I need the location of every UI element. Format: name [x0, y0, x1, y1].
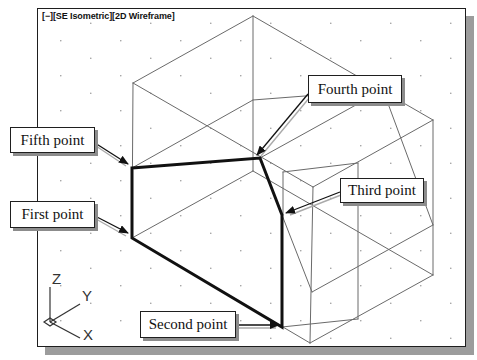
callout-fourth-point: Fourth point: [308, 75, 402, 103]
view-control[interactable]: [SE Isometric]: [53, 11, 112, 21]
callout-label: Fifth point: [21, 132, 85, 149]
callout-label: Second point: [149, 316, 228, 333]
ucs-z-label: Z: [52, 271, 61, 286]
callout-label: First point: [21, 206, 83, 223]
viewport-controls: [−][SE Isometric][2D Wireframe]: [42, 11, 175, 22]
ucs-y-label: Y: [82, 288, 92, 303]
visual-style-control[interactable]: [2D Wireframe]: [112, 11, 175, 21]
callout-fifth-point: Fifth point: [10, 127, 95, 153]
callout-first-point: First point: [10, 201, 95, 228]
viewport-menu-control[interactable]: [−]: [42, 11, 53, 21]
callout-third-point: Third point: [340, 178, 424, 203]
callout-second-point: Second point: [140, 311, 236, 338]
grid-dots: [39, 10, 464, 344]
callout-label: Fourth point: [318, 81, 393, 98]
ucs-x-label: X: [83, 327, 93, 342]
callout-label: Third point: [348, 182, 416, 199]
